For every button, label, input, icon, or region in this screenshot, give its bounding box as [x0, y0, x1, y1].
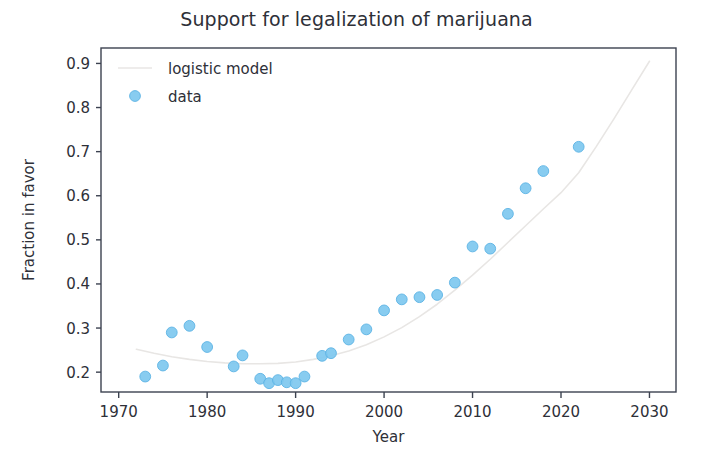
- y-axis-label: Fraction in favor: [20, 158, 38, 281]
- data-point: [326, 348, 337, 359]
- x-tick-label: 2010: [453, 403, 491, 421]
- x-tick-label: 1970: [100, 403, 138, 421]
- data-point: [158, 360, 169, 371]
- x-tick-label: 2020: [542, 403, 580, 421]
- y-tick-label: 0.8: [66, 99, 90, 117]
- legend-entry-label: data: [168, 88, 202, 106]
- data-point: [343, 334, 354, 345]
- chart-plot-area: 0.20.30.40.50.60.70.80.9 197019801990200…: [0, 0, 713, 466]
- data-point: [184, 320, 195, 331]
- data-point: [467, 241, 478, 252]
- y-tick-label: 0.7: [66, 143, 90, 161]
- data-point: [140, 371, 151, 382]
- y-tick-label: 0.5: [66, 231, 90, 249]
- data-point: [449, 277, 460, 288]
- y-tick-label: 0.3: [66, 320, 90, 338]
- data-point: [361, 324, 372, 335]
- data-point: [538, 166, 549, 177]
- y-tick-label: 0.9: [66, 55, 90, 73]
- x-tick-label: 1990: [277, 403, 315, 421]
- data-point: [379, 305, 390, 316]
- chart-legend: logistic modeldata: [118, 60, 273, 106]
- y-tick-label: 0.2: [66, 364, 90, 382]
- data-point: [237, 350, 248, 361]
- data-point: [503, 208, 514, 219]
- x-axis-ticks: 1970198019902000201020202030: [100, 392, 669, 421]
- logistic-model-line: [136, 61, 649, 364]
- data-point: [166, 327, 177, 338]
- x-axis-label: Year: [372, 428, 406, 446]
- data-point-markers: [140, 141, 584, 388]
- data-point: [573, 141, 584, 152]
- data-point: [202, 342, 213, 353]
- data-point: [414, 292, 425, 303]
- data-point: [520, 183, 531, 194]
- x-tick-label: 1980: [188, 403, 226, 421]
- data-point: [485, 243, 496, 254]
- y-tick-label: 0.6: [66, 187, 90, 205]
- x-tick-label: 2030: [630, 403, 668, 421]
- data-point: [299, 371, 310, 382]
- x-tick-label: 2000: [365, 403, 403, 421]
- legend-entry-label: logistic model: [168, 60, 273, 78]
- data-point: [396, 294, 407, 305]
- data-point: [228, 361, 239, 372]
- chart-figure: Support for legalization of marijuana 0.…: [0, 0, 713, 466]
- y-axis-ticks: 0.20.30.40.50.60.70.80.9: [66, 55, 101, 382]
- legend-marker-data: [130, 91, 141, 102]
- y-tick-label: 0.4: [66, 275, 90, 293]
- data-point: [432, 290, 443, 301]
